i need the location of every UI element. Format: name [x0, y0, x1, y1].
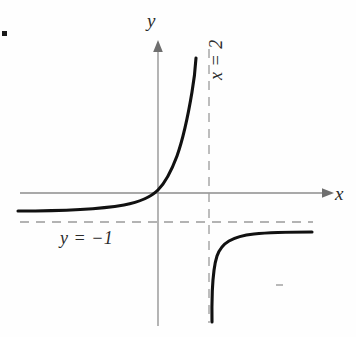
y-axis-label: y	[147, 10, 155, 32]
curve-right-branch	[212, 232, 312, 322]
vertical-asymptote-label: x = 2	[206, 39, 227, 80]
curve-left-branch	[18, 58, 196, 211]
y-axis-arrowhead	[153, 40, 163, 52]
horizontal-asymptote-label: y = −1	[60, 228, 113, 249]
graph-figure: y x x = 2 y = −1	[0, 0, 356, 337]
graph-canvas	[0, 0, 356, 337]
scan-artifact-dash	[276, 284, 283, 286]
x-axis-label: x	[335, 183, 343, 205]
x-axis	[20, 188, 334, 198]
scan-artifact-dot	[2, 31, 7, 36]
y-axis	[153, 40, 163, 326]
x-axis-arrowhead	[322, 188, 334, 198]
